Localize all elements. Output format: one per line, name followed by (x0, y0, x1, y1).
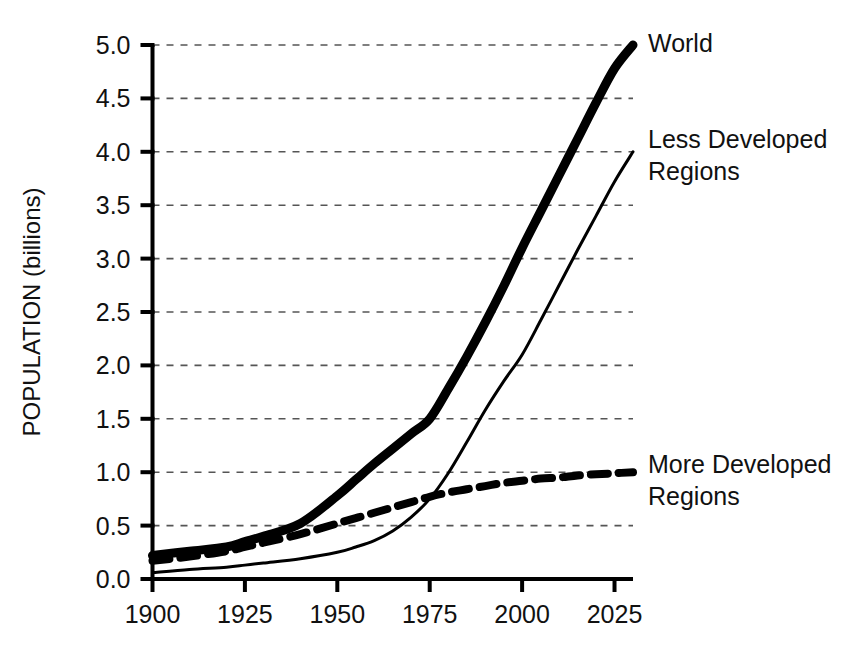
chart-canvas: 0.00.51.01.52.02.53.03.54.04.55.0 190019… (0, 0, 862, 650)
y-tick-label-2.0: 2.0 (96, 351, 131, 379)
x-tick-label-1900: 1900 (125, 600, 181, 628)
series-label-less-developed-line2: Regions (648, 157, 740, 185)
y-tick-label-4.0: 4.0 (96, 138, 131, 166)
x-tick-label-1975: 1975 (402, 600, 458, 628)
y-tick-label-4.5: 4.5 (96, 84, 131, 112)
series-label-less-developed-line1: Less Developed (648, 125, 827, 153)
y-tick-label-0.5: 0.5 (96, 512, 131, 540)
y-tick-label-5.0: 5.0 (96, 31, 131, 59)
y-tick-label-3.5: 3.5 (96, 191, 131, 219)
y-tick-label-3.0: 3.0 (96, 245, 131, 273)
x-tick-label-1925: 1925 (217, 600, 273, 628)
y-tick-label-1.5: 1.5 (96, 405, 131, 433)
y-axis-title: POPULATION (billions) (18, 188, 45, 437)
x-tick-label-2000: 2000 (494, 600, 550, 628)
series-label-more-developed-line1: More Developed (648, 450, 831, 478)
x-tick-label-2025: 2025 (587, 600, 643, 628)
x-tick-label-1950: 1950 (309, 600, 365, 628)
y-tick-label-1.0: 1.0 (96, 458, 131, 486)
y-tick-label-2.5: 2.5 (96, 298, 131, 326)
population-chart-figure: 0.00.51.01.52.02.53.03.54.04.55.0 190019… (0, 0, 862, 650)
series-label-world: World (648, 29, 713, 57)
y-tick-label-0.0: 0.0 (96, 565, 131, 593)
series-label-more-developed-line2: Regions (648, 482, 740, 510)
